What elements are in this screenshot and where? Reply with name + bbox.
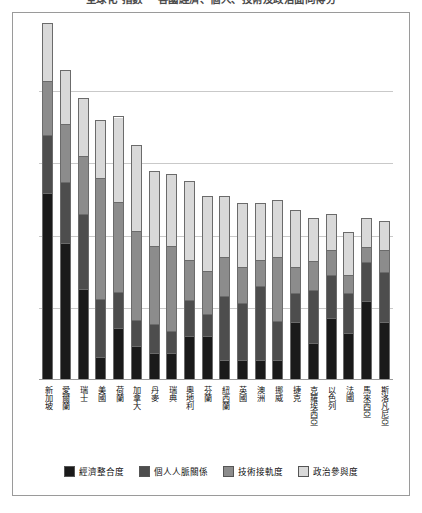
axis-baseline — [39, 379, 393, 380]
bar-segment-個人人脈關係 — [185, 301, 194, 337]
bar-segment-經濟整合度 — [309, 344, 318, 379]
bar-segment-政治參與度 — [256, 204, 265, 261]
x-axis-label-斯洛凡尼亞: 斯洛凡尼亞 — [380, 386, 388, 426]
bar-克羅埃西亞[interactable] — [308, 218, 319, 380]
bar-segment-經濟整合度 — [167, 354, 176, 379]
bar-瑞士[interactable] — [78, 98, 89, 380]
legend-swatch-personal — [139, 466, 150, 477]
bar-segment-技術接軌度 — [43, 82, 52, 136]
x-axis-label-瑞典: 瑞典 — [167, 386, 175, 402]
bar-segment-技術接軌度 — [132, 232, 141, 321]
bar-挪威[interactable] — [272, 200, 283, 381]
bar-segment-技術接軌度 — [220, 258, 229, 298]
bar-斯洛凡尼亞[interactable] — [379, 221, 390, 380]
bar-segment-政治參與度 — [238, 204, 247, 268]
x-axis-label-澳洲: 澳洲 — [256, 386, 264, 402]
bar-segment-個人人脈關係 — [132, 321, 141, 347]
bar-愛爾蘭[interactable] — [60, 70, 71, 380]
bar-segment-政治參與度 — [96, 121, 105, 179]
bar-segment-技術接軌度 — [114, 203, 123, 293]
bar-segment-政治參與度 — [185, 182, 194, 260]
bar-加拿大[interactable] — [131, 145, 142, 380]
bar-segment-技術接軌度 — [185, 261, 194, 301]
bar-馬來西亞[interactable] — [361, 218, 372, 380]
plot-area — [39, 19, 393, 380]
bar-英國[interactable] — [237, 203, 248, 380]
bar-segment-技術接軌度 — [362, 248, 371, 263]
bar-segment-技術接軌度 — [150, 247, 159, 326]
bar-新加坡[interactable] — [42, 23, 53, 380]
x-axis-label-愛爾蘭: 愛爾蘭 — [61, 386, 69, 410]
bar-芬蘭[interactable] — [202, 196, 213, 380]
bar-segment-個人人脈關係 — [327, 276, 336, 319]
bar-荷蘭[interactable] — [113, 116, 124, 380]
bar-segment-個人人脈關係 — [203, 315, 212, 337]
bar-segment-個人人脈關係 — [96, 300, 105, 358]
bar-segment-經濟整合度 — [291, 323, 300, 379]
bar-segment-經濟整合度 — [203, 337, 212, 379]
bar-紐西蘭[interactable] — [219, 196, 230, 380]
x-axis-labels: 新加坡愛爾蘭瑞士美國荷蘭加拿大丹麥瑞典奧地利芬蘭紐西蘭英國澳洲挪威捷克克羅埃西亞… — [39, 386, 393, 466]
bar-segment-經濟整合度 — [185, 337, 194, 379]
chart-frame: 新加坡愛爾蘭瑞士美國荷蘭加拿大丹麥瑞典奧地利芬蘭紐西蘭英國澳洲挪威捷克克羅埃西亞… — [12, 12, 410, 496]
x-axis-label-英國: 英國 — [238, 386, 246, 402]
bar-segment-經濟整合度 — [238, 361, 247, 379]
bar-segment-個人人脈關係 — [256, 287, 265, 362]
legend-swatch-economic — [64, 466, 75, 477]
bar-segment-個人人脈關係 — [238, 304, 247, 361]
x-axis-label-荷蘭: 荷蘭 — [114, 386, 122, 402]
legend-item-political[interactable]: 政治參與度 — [298, 465, 358, 477]
legend-item-personal[interactable]: 個人人脈關係 — [139, 465, 208, 477]
bar-segment-個人人脈關係 — [220, 297, 229, 361]
bar-segment-技術接軌度 — [167, 247, 176, 333]
legend-swatch-technology — [223, 466, 234, 477]
bar-segment-經濟整合度 — [273, 361, 282, 379]
x-axis-label-挪威: 挪威 — [273, 386, 281, 402]
bar-segment-個人人脈關係 — [309, 291, 318, 344]
bar-segment-政治參與度 — [291, 211, 300, 268]
bar-segment-個人人脈關係 — [114, 293, 123, 329]
bar-segment-個人人脈關係 — [291, 294, 300, 323]
legend-item-technology[interactable]: 技術接軌度 — [223, 465, 283, 477]
legend-item-economic[interactable]: 經濟整合度 — [64, 465, 124, 477]
x-axis-label-丹麥: 丹麥 — [150, 386, 158, 402]
legend-label-personal: 個人人脈關係 — [154, 465, 208, 477]
x-axis-label-克羅埃西亞: 克羅埃西亞 — [309, 386, 317, 426]
bar-segment-政治參與度 — [43, 24, 52, 82]
bar-法國[interactable] — [343, 232, 354, 380]
chart-page: 全球化 指數 ─ 各國經濟、個人、技術及政治面向得分 新加坡愛爾蘭瑞士美國荷蘭加… — [0, 0, 422, 513]
bar-segment-技術接軌度 — [273, 258, 282, 322]
x-axis-label-美國: 美國 — [96, 386, 104, 402]
bar-奧地利[interactable] — [184, 181, 195, 380]
chart-title-strip: 全球化 指數 ─ 各國經濟、個人、技術及政治面向得分 — [0, 0, 422, 11]
x-axis-label-奧地利: 奧地利 — [185, 386, 193, 410]
chart-legend: 經濟整合度個人人脈關係技術接軌度政治參與度 — [13, 465, 409, 477]
bar-澳洲[interactable] — [255, 203, 266, 380]
bar-以色列[interactable] — [326, 214, 337, 380]
bar-瑞典[interactable] — [166, 174, 177, 380]
bar-segment-個人人脈關係 — [43, 136, 52, 194]
bar-捷克[interactable] — [290, 210, 301, 380]
bar-segment-政治參與度 — [79, 99, 88, 157]
bar-segment-個人人脈關係 — [167, 332, 176, 354]
legend-swatch-political — [298, 466, 309, 477]
bar-segment-經濟整合度 — [96, 358, 105, 379]
legend-label-political: 政治參與度 — [313, 465, 358, 477]
bar-segment-個人人脈關係 — [380, 273, 389, 323]
bar-segment-技術接軌度 — [327, 251, 336, 277]
bar-丹麥[interactable] — [149, 171, 160, 380]
x-axis-label-捷克: 捷克 — [291, 386, 299, 402]
bar-segment-政治參與度 — [61, 71, 70, 125]
bar-segment-技術接軌度 — [203, 272, 212, 315]
bar-segment-經濟整合度 — [150, 354, 159, 379]
bar-group — [39, 19, 393, 380]
x-axis-label-芬蘭: 芬蘭 — [203, 386, 211, 402]
bar-segment-經濟整合度 — [380, 323, 389, 379]
bar-segment-經濟整合度 — [79, 290, 88, 379]
bar-segment-政治參與度 — [132, 146, 141, 232]
bar-segment-政治參與度 — [220, 197, 229, 258]
bar-segment-經濟整合度 — [344, 334, 353, 379]
bar-segment-政治參與度 — [327, 215, 336, 251]
bar-美國[interactable] — [95, 120, 106, 380]
bar-segment-個人人脈關係 — [273, 322, 282, 362]
